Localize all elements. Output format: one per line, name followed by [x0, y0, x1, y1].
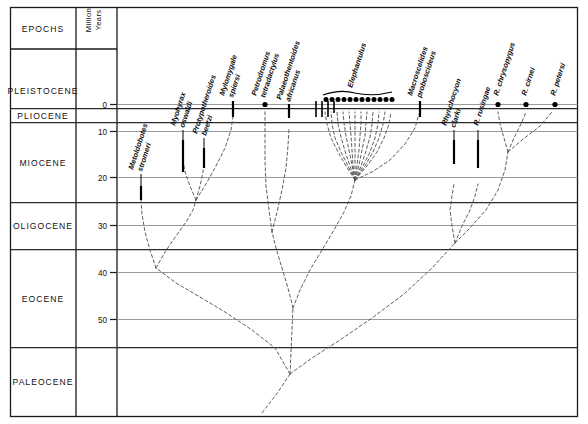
- elephantulus-species-dot-5: [348, 97, 353, 102]
- elephantulus-species-dot-12: [390, 97, 395, 102]
- lineage-branches: [141, 110, 552, 413]
- branch-to-r-petersi: [508, 112, 552, 152]
- header-epochs: EPOCHS: [22, 24, 64, 34]
- epoch-label-pleistocene: PLEISTOCENE: [7, 86, 78, 96]
- branch-to-petrodromus: [265, 110, 272, 232]
- dot-r-chrysopygus: [495, 102, 500, 107]
- branch-to-palaeothentoides: [272, 128, 289, 232]
- elephantulus-group-brace: [323, 91, 392, 95]
- taxon-label-r-petersi: R. petersi: [548, 61, 567, 97]
- branch-core-left-stem: [272, 232, 293, 308]
- branch-to-macroscelides: [355, 114, 419, 180]
- branch-root-to-core-stem: [290, 308, 293, 374]
- axis-tick-label-40: 40: [98, 269, 108, 278]
- taxon-labels: Metoldobotes stromeri Myohyrax oswaldi P…: [126, 40, 567, 173]
- axis-tick-label-50: 50: [98, 316, 108, 325]
- dot-petrodromus-tetradactylus: [262, 102, 267, 107]
- taxon-label-elephantulus: Elephantulus: [345, 42, 368, 89]
- header-scale-line2: Years: [94, 9, 103, 30]
- elephantulus-species-dot-9: [372, 97, 377, 102]
- branch-to-r-cirnei: [508, 112, 526, 152]
- axis-tick-label-20: 20: [98, 174, 108, 183]
- epoch-label-paleocene: PALEOCENE: [13, 377, 74, 387]
- branch-core-right-stem: [293, 180, 355, 308]
- axis-tick-label-0: 0: [102, 101, 107, 110]
- branch-to-r-chrysopygus: [498, 112, 508, 152]
- elephantulus-species-dot-6: [354, 97, 359, 102]
- branch-root-to-left-clade: [156, 268, 290, 374]
- axis-tick-label-30: 30: [98, 222, 108, 231]
- figure-canvas: EPOCHS Million Years PLEISTOCENE PLIOCEN…: [0, 0, 588, 424]
- branch-to-metoldobotes: [141, 200, 156, 268]
- epoch-label-miocene: MIOCENE: [19, 158, 66, 168]
- header-scale-line1: Million: [84, 8, 93, 32]
- branch-to-myohyrax: [183, 160, 196, 200]
- elephantulus-species-dot-1: [324, 97, 329, 102]
- axis-tick-label-10: 10: [98, 128, 108, 137]
- taxon-label-r-chrysopygus: R. chrysopygus: [491, 41, 517, 97]
- elephantulus-species-row: [323, 91, 395, 102]
- taxon-label-r-rusingae: R. rusingae: [471, 86, 492, 127]
- elephantulus-species-dot-4: [342, 97, 347, 102]
- dot-r-petersi: [552, 102, 557, 107]
- branch-left-clade-upper-stem: [156, 200, 196, 268]
- branch-rhynchocyon-crown-stem: [455, 152, 508, 243]
- elephantulus-species-dot-10: [378, 97, 383, 102]
- epoch-label-pliocene: PLIOCENE: [17, 111, 68, 121]
- elephantulus-species-dot-8: [366, 97, 371, 102]
- phylogeny-diagram: EPOCHS Million Years PLEISTOCENE PLIOCEN…: [0, 0, 588, 424]
- dot-r-cirnei: [523, 102, 528, 107]
- taxon-label-r-cirnei: R. cirnei: [519, 65, 537, 96]
- fossil-range-bars: [141, 101, 478, 200]
- branch-to-rhynchocyon-clarki: [450, 184, 455, 243]
- elephantulus-species-dot-3: [336, 97, 341, 102]
- elephantulus-species-dot-2: [330, 97, 335, 102]
- branch-root-stem: [262, 374, 290, 413]
- elephantulus-species-dot-7: [360, 97, 365, 102]
- epoch-label-eocene: EOCENE: [22, 294, 64, 304]
- epoch-label-oligocene: OLIGOCENE: [13, 221, 73, 231]
- elephantulus-species-dot-11: [384, 97, 389, 102]
- branch-to-rhynchocyon-rusingae: [455, 184, 478, 243]
